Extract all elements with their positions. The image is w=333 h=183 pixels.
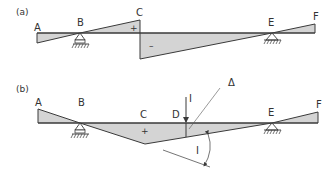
point-label-e: E [268, 107, 274, 118]
region-be-positive [80, 123, 272, 144]
delta-label: Δ [228, 77, 235, 88]
region-ef [272, 112, 318, 123]
point-label-f: F [316, 99, 322, 110]
panel-b-label: (b) [16, 84, 29, 94]
unit-load-label: I [189, 93, 192, 104]
point-label-d: D [172, 109, 180, 120]
pin-support-icon [264, 123, 281, 134]
angle-arc [204, 134, 210, 166]
tangent-line [163, 150, 210, 167]
sign-negative: – [149, 41, 154, 51]
region-ef-positive [272, 24, 315, 33]
region-ab [38, 109, 80, 123]
sign-positive: + [130, 23, 138, 33]
point-label-f: F [313, 11, 319, 22]
panel-a: (a) [16, 7, 319, 59]
region-ce-negative [140, 33, 272, 59]
region-ab-negative [37, 33, 80, 43]
angle-label: I [196, 145, 199, 156]
point-label-b: B [78, 97, 85, 108]
point-label-a: A [35, 97, 42, 108]
sign-positive: + [141, 126, 149, 136]
influence-line-diagram: (a) [0, 0, 333, 183]
panel-a-label: (a) [16, 7, 29, 17]
roller-support-icon [72, 33, 89, 48]
point-label-e: E [268, 17, 274, 28]
panel-b: (b) [16, 77, 322, 167]
point-label-a: A [34, 22, 41, 33]
point-label-b: B [77, 17, 84, 28]
point-label-c: C [140, 109, 147, 120]
pin-support-icon [264, 33, 281, 44]
point-label-c: C [136, 7, 143, 18]
